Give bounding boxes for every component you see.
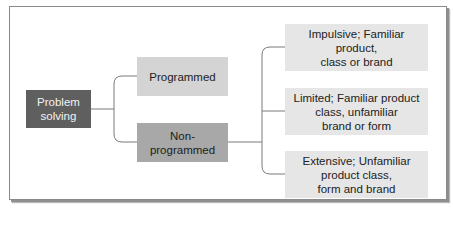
node-label-line: Limited; Familiar product: [294, 91, 420, 105]
node-programmed: Programmed: [137, 57, 228, 96]
connector-root-to-programmed: [114, 76, 137, 109]
node-label-line: Problem: [37, 95, 80, 109]
node-label-line: product class,: [302, 168, 410, 182]
node-label-line: form and brand: [302, 182, 410, 196]
node-label-line: solving: [37, 109, 80, 123]
node-label-line: Extensive; Unfamiliar: [302, 154, 410, 168]
node-limited: Limited; Familiar product class, unfamil…: [285, 88, 428, 135]
node-label-line: brand or form: [294, 119, 420, 133]
connector-to-extensive: [262, 142, 285, 174]
node-label: Programmed: [149, 70, 215, 84]
connector-to-impulsive: [262, 47, 285, 142]
node-label-line: class, unfamiliar: [294, 105, 420, 119]
node-label-line: class or brand: [289, 55, 424, 69]
node-label-line: Impulsive; Familiar product,: [289, 27, 424, 55]
node-problem-solving: Problem solving: [26, 90, 91, 128]
node-non-programmed: Non-programmed: [137, 123, 228, 162]
node-impulsive: Impulsive; Familiar product, class or br…: [285, 24, 428, 71]
node-label: Non-programmed: [141, 129, 224, 157]
connector-root-to-nonprogrammed: [114, 109, 137, 142]
node-extensive: Extensive; Unfamiliar product class, for…: [285, 151, 428, 198]
